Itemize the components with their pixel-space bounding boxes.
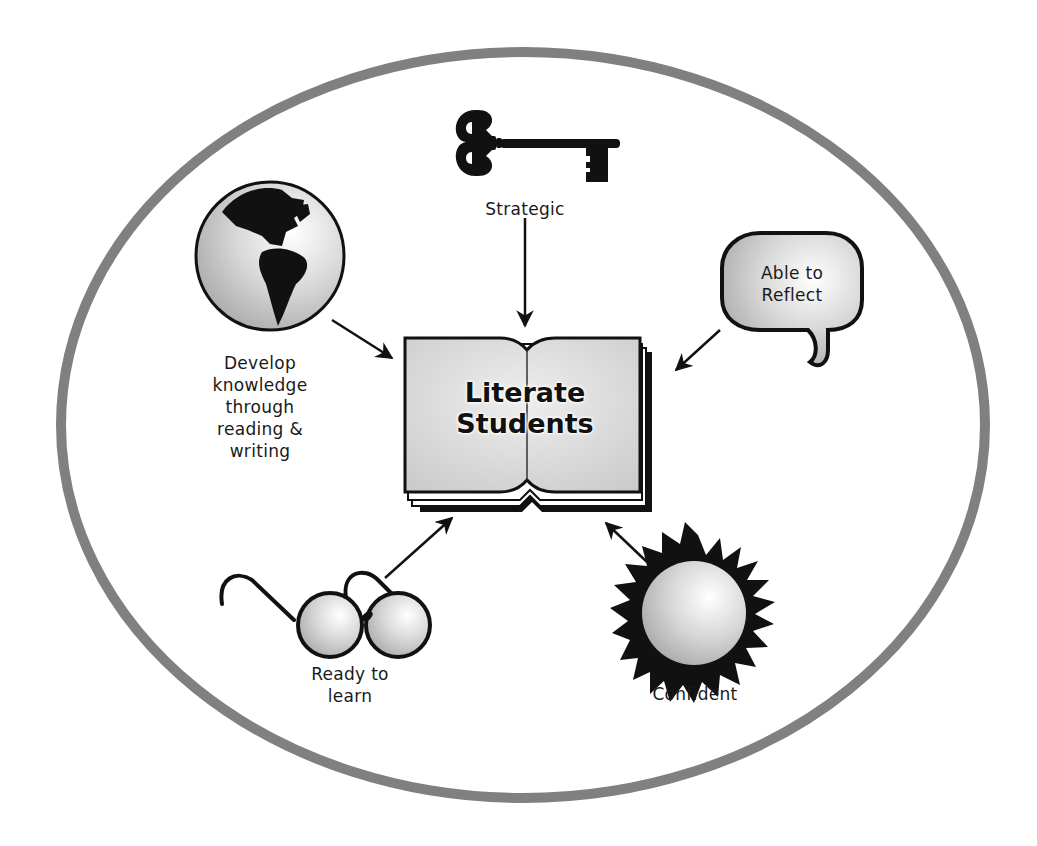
label-line: reading & bbox=[190, 418, 330, 440]
label-confident: Confident bbox=[630, 683, 760, 705]
label-line: Able to bbox=[732, 262, 852, 284]
key-icon bbox=[456, 110, 620, 182]
label-line: writing bbox=[190, 440, 330, 462]
center-label: Literate Students bbox=[430, 377, 620, 439]
center-label-line1: Literate bbox=[430, 377, 620, 408]
globe-icon bbox=[196, 182, 344, 330]
label-line: Ready to bbox=[290, 663, 410, 685]
arrow-develop bbox=[332, 320, 392, 358]
label-line: Strategic bbox=[465, 198, 585, 220]
glasses-icon bbox=[221, 573, 430, 657]
center-label-line2: Students bbox=[430, 408, 620, 439]
arrow-ready bbox=[385, 518, 452, 578]
label-develop: Develop knowledge through reading & writ… bbox=[190, 352, 330, 462]
label-line: learn bbox=[290, 685, 410, 707]
label-line: Confident bbox=[630, 683, 760, 705]
label-reflect: Able to Reflect bbox=[732, 262, 852, 306]
arrow-reflect bbox=[676, 330, 720, 370]
label-ready: Ready to learn bbox=[290, 663, 410, 707]
arrow-confident bbox=[606, 523, 647, 562]
label-line: through bbox=[190, 396, 330, 418]
label-strategic: Strategic bbox=[465, 198, 585, 220]
label-line: Develop bbox=[190, 352, 330, 374]
label-line: Reflect bbox=[732, 284, 852, 306]
label-line: knowledge bbox=[190, 374, 330, 396]
